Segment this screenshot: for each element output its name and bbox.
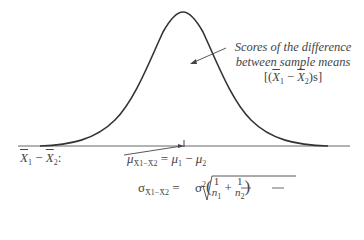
minus: − <box>32 150 46 165</box>
n1-sub: 1 <box>217 192 221 201</box>
sigma-squared: σ <box>195 180 202 195</box>
sd-formula: σX̄1−X̄2 = σ2(1n1 + 1n2) <box>138 176 250 202</box>
annotation-label: Scores of the difference between sample … <box>228 40 358 89</box>
mu-subscript: X̄1−X̄2 <box>134 159 158 168</box>
plus: + <box>224 180 231 195</box>
xbar2: X <box>297 70 305 84</box>
sigma-subscript: X̄1−X̄2 <box>145 188 169 197</box>
colon: : <box>58 150 62 165</box>
xbar1: X <box>272 70 280 84</box>
bracket-close: )s] <box>309 70 322 84</box>
minus: − <box>182 151 196 166</box>
minus: − <box>284 70 297 84</box>
xbar1: X <box>20 150 28 165</box>
xbar2: X <box>46 150 54 165</box>
axis-label: X1 − X2: <box>20 150 61 167</box>
annotation-arrow <box>192 48 226 63</box>
arrowhead-icon <box>190 59 197 64</box>
equals: = <box>158 151 172 166</box>
annotation-line-3: [(X1 − X2)s] <box>228 70 358 89</box>
annotation-line-2: between sample means <box>228 55 358 70</box>
sigma-symbol: σ <box>138 180 145 195</box>
sub2: 2 <box>202 159 206 168</box>
equals: = <box>169 180 183 195</box>
mean-formula: μX̄1−X̄2 = μ1 − μ2 <box>127 151 206 168</box>
annotation-line-1: Scores of the difference <box>228 40 358 55</box>
arrowhead-icon <box>178 144 184 148</box>
